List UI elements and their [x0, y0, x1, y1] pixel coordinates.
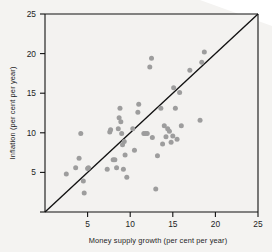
data-point — [86, 165, 91, 170]
chart-canvas: 25 20 15 10 5 5 10 15 20 25 Inflation (p… — [0, 0, 272, 252]
data-point — [145, 131, 150, 136]
data-point — [175, 137, 180, 142]
x-tick-label-10: 10 — [126, 219, 136, 229]
data-point — [187, 68, 192, 73]
data-point — [73, 165, 78, 170]
y-tick-label-20: 20 — [27, 49, 37, 59]
data-point — [122, 139, 127, 144]
x-tick-label-20: 20 — [211, 219, 221, 229]
x-axis-title: Money supply growth (per cent per year) — [89, 236, 228, 245]
x-tick-label-15: 15 — [168, 219, 178, 229]
data-point — [123, 152, 128, 157]
data-point — [171, 85, 176, 90]
data-point — [150, 135, 155, 140]
data-point — [167, 129, 172, 134]
data-point — [105, 167, 110, 172]
data-point — [155, 153, 160, 158]
data-point — [147, 65, 152, 70]
data-point — [202, 50, 207, 55]
y-tick-label-25: 25 — [27, 9, 37, 19]
y-tick-label-15: 15 — [27, 88, 37, 98]
data-point — [81, 179, 86, 184]
data-point — [160, 141, 165, 146]
scatter-chart-figure: 25 20 15 10 5 5 10 15 20 25 Inflation (p… — [0, 0, 272, 252]
y-axis-title: Inflation (per cent per year) — [8, 66, 17, 159]
data-point — [198, 118, 203, 123]
x-tick-label-5: 5 — [85, 219, 90, 229]
data-point — [117, 106, 122, 111]
data-point — [130, 126, 135, 131]
data-point — [108, 127, 113, 132]
data-point — [132, 148, 137, 153]
data-point — [119, 131, 124, 136]
data-point — [124, 175, 129, 180]
data-point — [177, 90, 182, 95]
data-point — [169, 140, 174, 145]
data-point — [163, 134, 168, 139]
y-tick-label-5: 5 — [31, 167, 36, 177]
x-tick-label-25: 25 — [253, 219, 263, 229]
data-point — [149, 56, 154, 61]
y-tick-label-10: 10 — [27, 128, 37, 138]
data-point — [135, 110, 140, 115]
data-point — [78, 131, 83, 136]
data-point — [77, 156, 82, 161]
data-point — [153, 187, 158, 192]
data-point — [121, 167, 126, 172]
data-point — [170, 133, 175, 138]
data-point — [64, 171, 69, 176]
data-point — [173, 106, 178, 111]
data-point — [114, 165, 119, 170]
data-point — [158, 106, 163, 111]
data-point — [179, 123, 184, 128]
data-point — [136, 102, 141, 107]
data-point — [118, 119, 123, 124]
data-point — [116, 126, 121, 131]
data-point — [112, 157, 117, 162]
data-point — [199, 60, 204, 65]
data-point — [82, 190, 87, 195]
